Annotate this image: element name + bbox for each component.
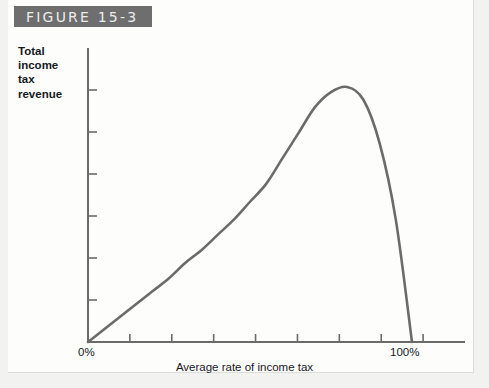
- x-axis-caption: Average rate of income tax: [0, 361, 489, 373]
- figure-page: FIGURE 15-3 Total income tax revenue 0% …: [0, 0, 489, 388]
- x-axis-label-start: 0%: [78, 346, 95, 358]
- x-axis-label-end: 100%: [390, 346, 419, 358]
- laffer-curve-chart: [0, 0, 489, 388]
- y-axis-ticks: [88, 90, 97, 300]
- x-axis-ticks: [130, 334, 423, 342]
- laffer-curve-line: [88, 87, 412, 342]
